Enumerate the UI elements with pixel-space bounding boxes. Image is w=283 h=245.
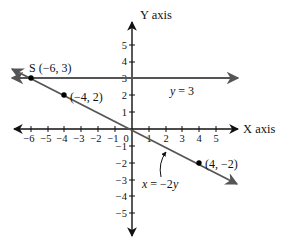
point-4-neg2-label: (4, −2) [205,157,238,171]
point-neg4-2-label: (−4, 2) [70,90,103,104]
svg-text:−5: −5 [116,208,127,219]
y-axis-title: Y axis [140,8,172,22]
equation-y-equals-3: y = 3 [169,84,194,98]
svg-text:2: 2 [163,133,168,144]
svg-text:5: 5 [213,133,218,144]
svg-text:−3: −3 [73,133,84,144]
point-4-neg2 [196,160,201,165]
svg-text:5: 5 [122,40,127,51]
equation-x-equals-neg-2y: x = −2y [141,177,179,191]
svg-text:3: 3 [179,133,184,144]
point-s [28,75,33,80]
svg-text:4: 4 [122,56,128,67]
svg-text:4: 4 [196,133,202,144]
svg-text:−6: −6 [23,133,34,144]
svg-text:1: 1 [122,107,127,118]
point-neg4-2 [61,92,66,97]
svg-text:−2: −2 [90,133,101,144]
annotation-arrow-icon [160,152,166,177]
svg-text:−1: −1 [116,141,127,152]
svg-text:2: 2 [122,90,127,101]
coordinate-plane: −6 −5 −4 −3 −2 −1 0 1 2 3 4 5 −5 −4 −3 −… [0,0,283,245]
svg-text:−5: −5 [40,133,51,144]
point-s-label: S (−6, 3) [29,61,71,75]
svg-text:−4: −4 [56,133,68,144]
svg-text:−3: −3 [116,175,127,186]
x-axis-title: X axis [243,122,275,136]
svg-text:−2: −2 [116,158,127,169]
svg-text:−4: −4 [116,191,128,202]
